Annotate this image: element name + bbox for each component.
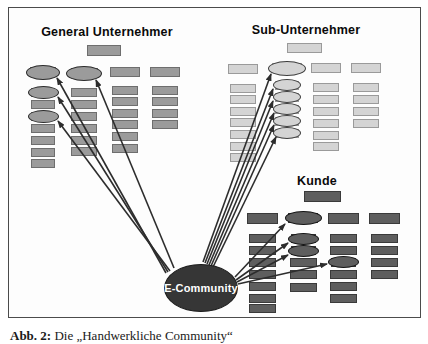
highlighted-unit-ellipse [66, 66, 102, 81]
unit-box [369, 213, 400, 224]
unit-box [328, 213, 359, 224]
unit-box [290, 270, 317, 279]
group-header-box [87, 45, 121, 56]
highlighted-unit-ellipse [288, 245, 319, 257]
unit-box [330, 282, 357, 291]
highlighted-unit-ellipse [273, 91, 301, 103]
unit-box [313, 119, 339, 128]
unit-box [371, 270, 398, 279]
highlighted-unit-ellipse [328, 256, 359, 268]
unit-box [150, 67, 180, 77]
unit-box [112, 86, 138, 95]
unit-box [112, 97, 138, 106]
unit-box [249, 270, 276, 279]
unit-box [249, 294, 276, 303]
unit-box [330, 294, 357, 303]
unit-box [112, 120, 138, 129]
unit-box [313, 131, 339, 140]
unit-box [31, 124, 55, 133]
unit-box [31, 136, 55, 145]
unit-box [353, 119, 379, 128]
unit-box [313, 95, 339, 104]
unit-box [71, 88, 97, 97]
unit-box [152, 97, 178, 106]
unit-box [353, 83, 379, 92]
unit-box [71, 100, 97, 109]
unit-box [71, 147, 97, 156]
highlighted-unit-ellipse [288, 233, 319, 245]
unit-box [31, 159, 55, 168]
unit-box [249, 258, 276, 267]
group-header-box [304, 191, 341, 202]
e-community-label: E-Community [164, 282, 238, 294]
highlighted-unit-ellipse [26, 65, 60, 80]
unit-box [230, 95, 256, 104]
unit-box [353, 107, 379, 116]
unit-box [330, 270, 357, 279]
unit-box [230, 153, 256, 162]
unit-box [31, 148, 55, 157]
unit-box [71, 112, 97, 121]
unit-box [313, 83, 339, 92]
unit-box [330, 246, 357, 255]
unit-box [31, 100, 55, 109]
unit-box [152, 120, 178, 129]
unit-box [230, 118, 256, 127]
caption-text: Die „Handwerkliche Community“ [51, 328, 233, 343]
unit-box [290, 258, 317, 267]
group-title-kunde: Kunde [297, 174, 337, 188]
unit-box [112, 144, 138, 153]
unit-box [230, 107, 256, 116]
unit-box [247, 213, 278, 224]
unit-box [371, 246, 398, 255]
unit-box [71, 124, 97, 133]
unit-box [112, 109, 138, 118]
unit-box [230, 84, 256, 93]
e-community-hub-ellipse: E-Community [164, 264, 238, 312]
unit-box [351, 63, 381, 73]
unit-box [112, 132, 138, 141]
unit-box [152, 109, 178, 118]
group-title-sub-unternehmer: Sub-Unternehmer [252, 23, 361, 37]
unit-box [249, 246, 276, 255]
unit-box [330, 234, 357, 243]
highlighted-unit-ellipse [273, 115, 301, 127]
unit-box [249, 304, 276, 313]
group-header-box [287, 43, 322, 53]
unit-box [110, 67, 140, 77]
unit-box [371, 234, 398, 243]
highlighted-unit-ellipse [273, 103, 301, 115]
figure-caption: Abb. 2: Die „Handwerkliche Community“ [10, 328, 233, 344]
unit-box [249, 234, 276, 243]
highlighted-unit-ellipse [268, 61, 306, 76]
unit-box [152, 86, 178, 95]
unit-box [290, 283, 317, 292]
unit-box [313, 142, 339, 151]
highlighted-unit-ellipse [273, 79, 301, 91]
unit-box [230, 130, 256, 139]
highlighted-unit-ellipse [28, 110, 59, 123]
caption-number: Abb. 2: [10, 328, 51, 343]
unit-box [313, 107, 339, 116]
unit-box [228, 64, 258, 74]
highlighted-unit-ellipse [273, 127, 301, 139]
unit-box [311, 63, 341, 73]
unit-box [371, 258, 398, 267]
highlighted-unit-ellipse [285, 211, 322, 225]
group-title-general-unternehmer: General Unternehmer [41, 25, 173, 39]
unit-box [71, 136, 97, 145]
unit-box [353, 95, 379, 104]
highlighted-unit-ellipse [28, 86, 59, 99]
unit-box [249, 282, 276, 291]
unit-box [230, 142, 256, 151]
